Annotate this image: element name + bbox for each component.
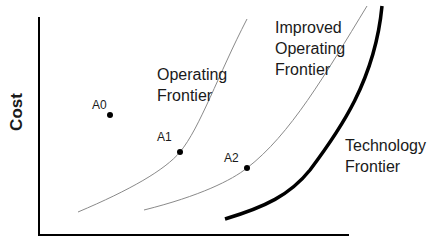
operating-frontier-label-line1: Operating — [157, 65, 227, 85]
y-axis-label: Cost — [7, 92, 27, 132]
point-a1-label: A1 — [157, 130, 172, 144]
frontier-diagram — [0, 0, 436, 248]
operating-frontier-label-line2: Frontier — [157, 86, 212, 106]
improved-frontier-label-line3: Frontier — [275, 60, 330, 80]
improved-frontier-label-line2: Operating — [275, 39, 345, 59]
point-a0-label: A0 — [92, 98, 107, 112]
point-a0 — [107, 112, 113, 118]
technology-frontier-label-line1: Technology — [345, 136, 426, 156]
point-a2 — [244, 165, 250, 171]
point-a1 — [177, 149, 183, 155]
technology-frontier-label-line2: Frontier — [345, 157, 400, 177]
improved-frontier-label-line1: Improved — [275, 18, 342, 38]
point-a2-label: A2 — [224, 151, 239, 165]
